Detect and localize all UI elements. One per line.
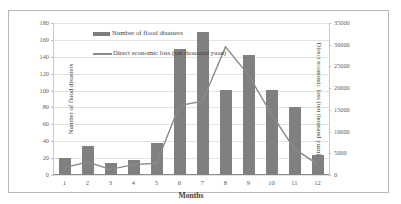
left-tick-mark <box>51 175 53 176</box>
x-tick-label: 12 <box>314 180 321 187</box>
left-tick-label: 120 <box>40 71 49 77</box>
x-tick-label: 11 <box>291 180 297 187</box>
right-tick-mark <box>329 45 331 46</box>
legend-item-line: Direct economic loss (ten thousand yuan) <box>93 49 273 57</box>
x-tick-label: 7 <box>201 180 204 187</box>
left-tick-label: 60 <box>43 121 49 127</box>
gridline <box>53 175 329 176</box>
right-tick-label: 10000 <box>334 128 350 134</box>
right-tick-mark <box>329 88 331 89</box>
right-tick-mark <box>329 66 331 67</box>
left-axis-label: Number of flood disasters <box>68 39 75 159</box>
right-axis-label: Direct economic loss (ten thousand yuan) <box>316 19 323 179</box>
left-tick-label: 160 <box>40 37 49 43</box>
x-tick-label: 8 <box>224 180 227 187</box>
right-tick-label: 35000 <box>334 20 350 26</box>
right-tick-label: 25000 <box>334 63 350 69</box>
legend-item-bars: Number of flood disasters <box>93 29 273 37</box>
right-tick-label: 15000 <box>334 107 350 113</box>
right-tick-mark <box>329 110 331 111</box>
x-tick-label: 10 <box>268 180 275 187</box>
chart-legend: Number of flood disasters Direct economi… <box>93 29 273 70</box>
x-tick-label: 4 <box>132 180 135 187</box>
chart-frame: 020406080100120140160180 050001000015000… <box>8 10 389 193</box>
left-tick-label: 80 <box>43 104 49 110</box>
x-tick-label: 1 <box>63 180 66 187</box>
right-tick-label: 30000 <box>334 42 350 48</box>
legend-label-bars: Number of flood disasters <box>112 29 183 37</box>
x-axis-label: Months <box>53 191 329 200</box>
right-tick-label: 5000 <box>334 150 347 156</box>
right-tick-mark <box>329 23 331 24</box>
left-tick-label: 140 <box>40 54 49 60</box>
x-tick-label: 3 <box>109 180 112 187</box>
x-tick-label: 6 <box>178 180 181 187</box>
right-tick-mark <box>329 132 331 133</box>
legend-label-line: Direct economic loss (ten thousand yuan) <box>113 49 226 57</box>
left-tick-label: 180 <box>40 20 49 26</box>
right-tick-label: 20000 <box>334 85 350 91</box>
right-axis-line <box>329 23 330 175</box>
left-tick-label: 20 <box>43 155 49 161</box>
left-tick-label: 0 <box>46 172 49 178</box>
right-tick-label: 0 <box>334 172 337 178</box>
right-tick-mark <box>329 153 331 154</box>
x-tick-label: 2 <box>86 180 89 187</box>
left-tick-label: 40 <box>43 138 49 144</box>
line-swatch-icon <box>93 53 112 55</box>
bar-swatch-icon <box>93 32 110 36</box>
x-tick-label: 9 <box>247 180 250 187</box>
right-tick-mark <box>329 175 331 176</box>
x-tick-label: 5 <box>155 180 158 187</box>
left-tick-label: 100 <box>40 87 49 93</box>
